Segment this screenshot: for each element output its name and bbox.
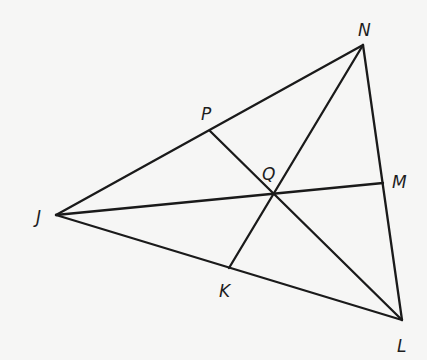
vertex-label-J: J xyxy=(33,207,41,227)
point-label-P: P xyxy=(201,104,212,124)
point-label-K: K xyxy=(219,281,232,301)
vertex-label-L: L xyxy=(397,336,406,356)
triangle-diagram: N P Q M J K L xyxy=(0,0,427,360)
cevian-NK xyxy=(229,45,363,268)
vertex-label-N: N xyxy=(358,20,371,40)
point-label-M: M xyxy=(392,172,407,192)
segments-group xyxy=(56,45,402,320)
intersection-label-Q: Q xyxy=(262,164,275,184)
